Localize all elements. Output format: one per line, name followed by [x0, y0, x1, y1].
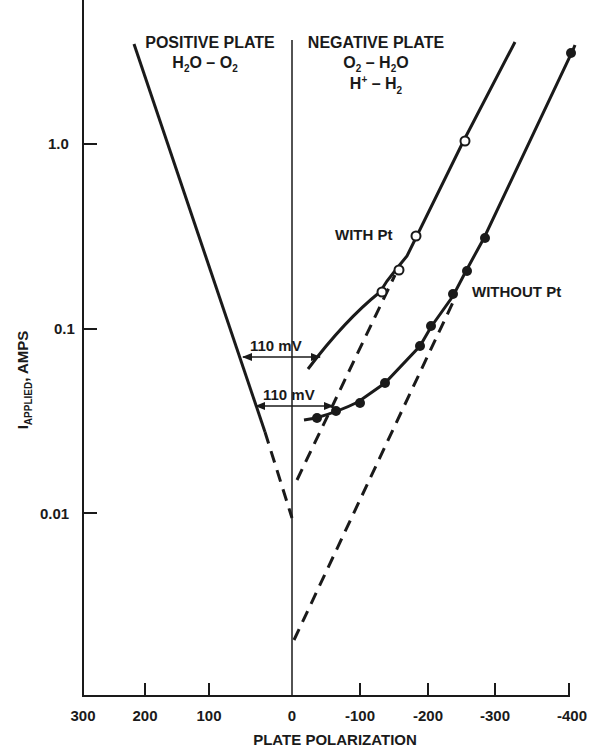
filled-circle-marker [448, 289, 458, 299]
filled-circle-marker [462, 266, 472, 276]
filled-circle-marker [415, 341, 425, 351]
filled-circle-marker [355, 398, 365, 408]
y-axis-title: IAPPLIED, AMPS [15, 331, 34, 430]
filled-circle-marker [480, 233, 490, 243]
filled-circle-marker [312, 413, 322, 423]
y-tick-label: 1.0 [48, 136, 69, 151]
lower-110mv-label: 110 mV [263, 387, 315, 402]
filled-circle-marker [331, 406, 341, 416]
open-circle-marker [395, 266, 404, 275]
x-tick-label: 100 [196, 708, 221, 723]
negative-plate-reaction-1: O2 – H2O [343, 55, 408, 74]
with-pt-label: WITH Pt [335, 227, 393, 242]
negative-plate-title: NEGATIVE PLATE [308, 35, 444, 51]
with-pt-curve [308, 42, 515, 369]
filled-circle-marker [380, 378, 390, 388]
x-tick-label: -100 [345, 708, 375, 723]
positive-plate-title: POSITIVE PLATE [145, 35, 275, 51]
x-tick-label: -400 [557, 708, 587, 723]
open-circle-marker [461, 137, 470, 146]
positive-plate-extrapolation [265, 432, 292, 518]
filled-circle-marker [566, 48, 576, 58]
upper-110mv-label: 110 mV [250, 338, 302, 353]
positive-plate-line [134, 44, 265, 432]
x-tick-label: -300 [480, 708, 510, 723]
without-pt-label: WITHOUT Pt [472, 284, 561, 299]
chart-plot-area [0, 0, 611, 755]
y-tick-label: 0.01 [40, 506, 69, 521]
with-pt-extrapolation [297, 275, 395, 480]
x-tick-label: 0 [288, 708, 296, 723]
y-tick-label: 0.1 [54, 321, 75, 336]
x-tick-label: 200 [132, 708, 157, 723]
without-pt-extrapolation [294, 298, 455, 640]
open-circle-marker [378, 288, 387, 297]
filled-circle-marker [426, 321, 436, 331]
open-circle-marker [412, 232, 421, 241]
negative-plate-reaction-2: H+ – H2 [350, 75, 402, 96]
with-pt-markers [378, 137, 470, 297]
x-tick-label: 300 [70, 708, 95, 723]
x-axis-title: PLATE POLARIZATION [253, 732, 417, 747]
x-tick-label: -200 [413, 708, 443, 723]
positive-plate-reaction: H2O – O2 [172, 55, 237, 74]
